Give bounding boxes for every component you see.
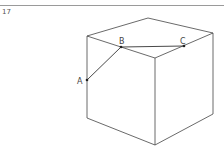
cube-diagram: A B C xyxy=(0,0,224,153)
cube-top-face xyxy=(87,18,213,58)
cube-edge-bottom-right xyxy=(155,114,213,145)
point-b xyxy=(120,46,123,49)
label-b: B xyxy=(119,37,125,46)
segment-b-c xyxy=(121,46,184,47)
cube-edge-bottom-left xyxy=(87,118,155,145)
point-a xyxy=(86,79,89,82)
label-a: A xyxy=(77,77,83,86)
segment-a-b xyxy=(87,47,121,80)
label-c: C xyxy=(180,37,186,46)
